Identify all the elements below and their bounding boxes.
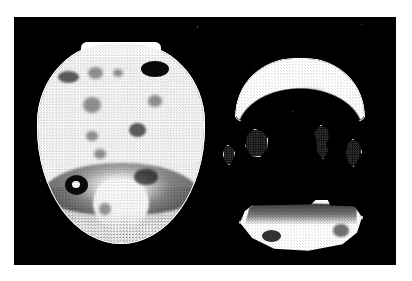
region-grain — [344, 139, 362, 167]
outlined-region-lower-left — [223, 145, 235, 165]
axial-brain-slice — [38, 43, 204, 243]
region-grain — [313, 125, 331, 159]
superior-crescent-segment — [236, 59, 364, 121]
outlined-region-inner-left — [245, 129, 268, 157]
inferior-elongated-slab — [240, 199, 362, 253]
crescent-contour-outline — [235, 58, 365, 122]
slab-contour-outline — [239, 198, 363, 254]
outlined-region-inner-right — [313, 125, 331, 159]
region-grain — [223, 145, 235, 165]
figure-root: Greyscale tomographic scan figure — [0, 0, 412, 281]
outlined-region-outer-right — [344, 139, 362, 167]
scan-panel — [14, 17, 396, 265]
region-grain — [245, 129, 268, 157]
